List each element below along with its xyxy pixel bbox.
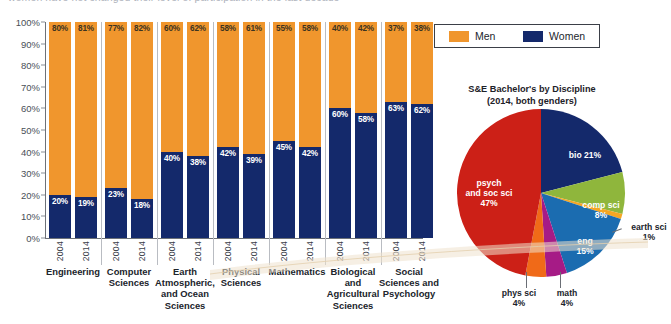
stacked-bar[interactable]: 82%18% <box>131 22 153 238</box>
stacked-bar[interactable]: 61%39% <box>243 22 265 238</box>
bar-segment-women: 38% <box>187 156 209 238</box>
x-tick-year: 2004 <box>55 241 65 261</box>
bar-value-women: 19% <box>75 199 97 208</box>
bar-value-women: 60% <box>329 110 351 119</box>
legend-item-men: Men <box>449 30 495 42</box>
bar-value-men: 77% <box>105 24 127 33</box>
bar-segment-women: 18% <box>131 199 153 238</box>
y-tick-label: 100% <box>16 17 40 28</box>
bar-plot-area: 80%20%81%19%77%23%82%18%60%40%62%38%58%4… <box>46 22 424 238</box>
bar-group: 80%20%81%19% <box>49 22 97 238</box>
legend-label-men: Men <box>475 30 495 42</box>
bar-segment-women: 23% <box>105 188 127 238</box>
bar-value-women: 38% <box>187 158 209 167</box>
pie-label-bio: bio 21% <box>556 150 614 160</box>
group-separator <box>269 22 270 265</box>
bar-value-women: 58% <box>355 115 377 124</box>
bar-value-men: 37% <box>385 24 407 33</box>
y-tick-label: 50% <box>21 125 40 136</box>
y-tick-label: 30% <box>21 168 40 179</box>
bar-segment-women: 60% <box>329 108 351 238</box>
pie-label-line: comp sci <box>572 200 630 210</box>
y-tick-label: 70% <box>21 81 40 92</box>
bar-segment-men: 77% <box>105 22 127 188</box>
y-axis: 0%10%20%30%40%50%60%70%80%90%100% <box>0 22 44 238</box>
stacked-bar[interactable]: 80%20% <box>49 22 71 238</box>
stacked-bar[interactable]: 40%60% <box>329 22 351 238</box>
bar-segment-men: 81% <box>75 22 97 197</box>
x-tick-year: 2004 <box>111 241 121 261</box>
x-tick-year: 2014 <box>417 241 427 261</box>
bar-segment-men: 61% <box>243 22 265 154</box>
bar-value-men: 58% <box>217 24 239 33</box>
y-tick-label: 60% <box>21 103 40 114</box>
pie-chart-title: S&E Bachelor's by Discipline (2014, both… <box>434 84 630 107</box>
x-tick-year: 2014 <box>81 241 91 261</box>
bar-group: 60%40%62%38% <box>161 22 209 238</box>
stacked-bar[interactable]: 77%23% <box>105 22 127 238</box>
pie-label-line: psych <box>460 178 518 188</box>
bar-segment-women: 58% <box>355 113 377 238</box>
x-tick-year: 2004 <box>335 241 345 261</box>
group-separator <box>213 22 214 265</box>
bar-segment-women: 45% <box>273 141 295 238</box>
bar-value-women: 18% <box>131 201 153 210</box>
bar-segment-women: 42% <box>299 147 321 238</box>
stacked-bar[interactable]: 58%42% <box>299 22 321 238</box>
stacked-bar[interactable]: 60%40% <box>161 22 183 238</box>
bar-segment-women: 19% <box>75 197 97 238</box>
pie-title-line2: (2014, both genders) <box>434 96 630 108</box>
bar-value-women: 39% <box>243 156 265 165</box>
bar-value-women: 23% <box>105 190 127 199</box>
pie-leader-line <box>526 272 527 288</box>
bar-group: 58%42%61%39% <box>217 22 265 238</box>
bar-group: 77%23%82%18% <box>105 22 153 238</box>
bar-value-women: 40% <box>161 154 183 163</box>
y-tick-label: 10% <box>21 211 40 222</box>
bar-value-women: 42% <box>217 149 239 158</box>
bar-segment-men: 40% <box>329 22 351 108</box>
stacked-bar[interactable]: 58%42% <box>217 22 239 238</box>
group-separator <box>101 22 102 265</box>
bar-group: 40%60%42%58% <box>329 22 377 238</box>
y-tick-label: 80% <box>21 60 40 71</box>
bar-segment-men: 60% <box>161 22 183 152</box>
x-tick-year: 2004 <box>167 241 177 261</box>
pie-label-line: 47% <box>460 198 518 208</box>
legend-label-women: Women <box>549 30 585 42</box>
pie-label-comp-sci: comp sci8% <box>572 200 630 220</box>
legend-item-women: Women <box>523 30 585 42</box>
stacked-bar[interactable]: 55%45% <box>273 22 295 238</box>
bar-value-men: 58% <box>299 24 321 33</box>
stacked-bar[interactable]: 37%63% <box>385 22 407 238</box>
pie-label-line: math <box>538 288 596 298</box>
bar-segment-men: 55% <box>273 22 295 141</box>
pie-title-line1: S&E Bachelor's by Discipline <box>434 84 630 96</box>
bar-value-men: 60% <box>161 24 183 33</box>
bar-value-women: 42% <box>299 149 321 158</box>
stacked-bar[interactable]: 38%62% <box>411 22 433 238</box>
stacked-bar[interactable]: 42%58% <box>355 22 377 238</box>
pie-leader-line <box>560 272 561 288</box>
bar-value-men: 80% <box>49 24 71 33</box>
stacked-bar[interactable]: 81%19% <box>75 22 97 238</box>
x-category-line: Sciences <box>197 277 285 288</box>
x-tick-year: 2004 <box>279 241 289 261</box>
pie-label-psych-and-soc-sci: psychand soc sci47% <box>460 178 518 208</box>
y-tick-label: 40% <box>21 146 40 157</box>
pie-label-line: eng <box>556 236 614 246</box>
bar-segment-women: 39% <box>243 154 265 238</box>
y-tick-label: 90% <box>21 38 40 49</box>
bar-value-men: 81% <box>75 24 97 33</box>
bar-value-men: 62% <box>187 24 209 33</box>
bar-value-men: 55% <box>273 24 295 33</box>
bar-segment-women: 42% <box>217 147 239 238</box>
x-tick-year: 2004 <box>391 241 401 261</box>
stacked-bar[interactable]: 62%38% <box>187 22 209 238</box>
y-tick-label: 20% <box>21 189 40 200</box>
bar-value-women: 63% <box>385 104 407 113</box>
bar-value-men: 40% <box>329 24 351 33</box>
bar-segment-men: 38% <box>411 22 433 104</box>
bar-value-men: 38% <box>411 24 433 33</box>
bar-value-men: 61% <box>243 24 265 33</box>
